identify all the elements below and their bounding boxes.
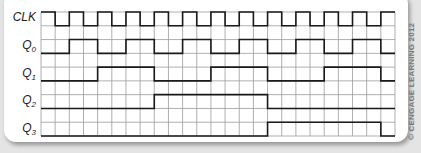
label-subscript: 3 — [32, 128, 36, 137]
waveform-q0 — [41, 40, 395, 54]
waveform-q3 — [41, 122, 395, 136]
label-subscript: 1 — [32, 73, 36, 82]
label-text: CLK — [13, 10, 36, 24]
copyright-notice: © CENGAGE LEARNING 2012 — [407, 23, 416, 140]
waveforms — [41, 12, 395, 136]
label-subscript: 0 — [32, 45, 36, 54]
label-text: Q — [22, 93, 31, 107]
signal-label-q3: Q3 — [2, 121, 36, 137]
label-text: Q — [22, 38, 31, 52]
signal-label-q2: Q2 — [2, 93, 36, 109]
label-text: Q — [22, 121, 31, 135]
waveform-q1 — [41, 67, 395, 81]
waveform-q2 — [41, 95, 395, 109]
grid-lines — [41, 12, 395, 136]
timing-diagram — [0, 0, 421, 153]
signal-label-q0: Q0 — [2, 38, 36, 54]
label-subscript: 2 — [32, 100, 36, 109]
label-text: Q — [22, 66, 31, 80]
signal-label-clk: CLK — [2, 10, 36, 24]
waveform-clk — [41, 12, 395, 26]
signal-label-q1: Q1 — [2, 66, 36, 82]
